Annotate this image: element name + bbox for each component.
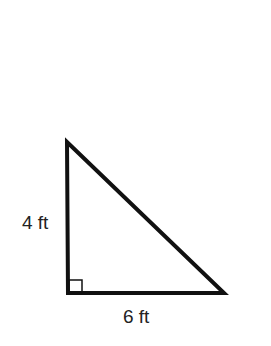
right-triangle — [67, 142, 224, 293]
horizontal-leg-label: 6 ft — [123, 306, 150, 327]
triangle-diagram: 4 ft 6 ft — [0, 0, 271, 346]
vertical-leg-label: 4 ft — [22, 212, 49, 233]
